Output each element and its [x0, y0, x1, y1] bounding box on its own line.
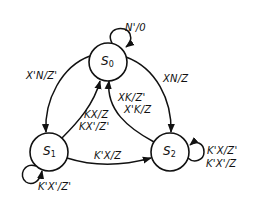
edge-label-s1-s1: K'X'/Z'	[38, 181, 71, 192]
edge-label-s1-s0-line1: KX/Z	[84, 109, 108, 120]
state-s1-label: S1	[43, 145, 56, 161]
edge-label-s2-s2-line1: K'X/Z'	[207, 145, 237, 156]
edge-label-s0-s1: X'N/Z'	[26, 70, 57, 81]
state-s2-subscript: 2	[171, 150, 176, 159]
edge-label-s1-s2: K'X/Z	[94, 150, 121, 161]
edge-label-s1-s0-line2: KX'/Z'	[79, 121, 109, 132]
state-s0-name: S	[101, 54, 109, 68]
state-s1-name: S	[43, 144, 51, 158]
edge-label-s2-s0-line1: XK/Z'	[118, 92, 145, 103]
state-s2-name: S	[163, 144, 171, 158]
edge-s2-s2	[188, 143, 204, 161]
edge-label-s2-s0-line2: X'K/Z	[124, 104, 151, 115]
state-s0-label: S0	[101, 55, 114, 71]
state-diagram: S0 S1 S2 N'/0 X'N/Z' XN/Z KX/Z KX'/Z' XK…	[0, 0, 262, 210]
state-s2-label: S2	[163, 145, 176, 161]
state-s1-subscript: 1	[51, 150, 56, 159]
edge-label-s0-s0: N'/0	[125, 22, 146, 33]
state-s0-subscript: 0	[109, 60, 114, 69]
edge-label-s0-s2: XN/Z	[163, 73, 188, 84]
edge-label-s2-s2-line2: K'X'/Z	[206, 158, 236, 169]
